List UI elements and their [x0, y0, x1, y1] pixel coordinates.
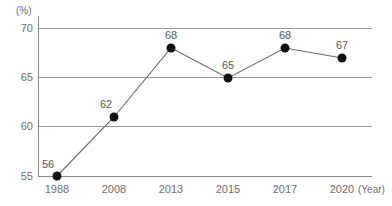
data-point-2017[interactable] [281, 44, 290, 53]
data-label-2013: 68 [165, 29, 177, 41]
data-label-1988: 56 [42, 158, 54, 170]
y-tick-label-60: 60 [21, 120, 33, 132]
data-label-2020: 67 [336, 39, 348, 51]
x-tick-label-2015: 2015 [216, 183, 240, 195]
y-tick-labels: 70 65 60 55 [21, 22, 33, 182]
chart-canvas: (%) 70 65 60 55 1988 2008 2013 2015 2017… [0, 0, 392, 206]
y-tick-label-55: 55 [21, 170, 33, 182]
data-label-2017: 68 [279, 29, 291, 41]
x-tick-label-2017: 2017 [273, 183, 297, 195]
y-axis-unit-label: (%) [16, 5, 32, 16]
y-tick-label-70: 70 [21, 22, 33, 34]
data-value-labels: 56 62 68 65 68 67 [42, 29, 348, 170]
series-markers [53, 44, 347, 181]
x-tick-label-2013: 2013 [159, 183, 183, 195]
x-tick-labels: 1988 2008 2013 2015 2017 2020 (Year) [45, 183, 385, 195]
x-axis-unit-label: (Year) [358, 184, 385, 195]
series-line [57, 48, 342, 176]
data-point-2015[interactable] [224, 74, 233, 83]
data-point-2020[interactable] [338, 54, 347, 63]
axes [39, 16, 372, 177]
x-tick-label-2020: 2020 [330, 183, 354, 195]
data-label-2008: 62 [100, 98, 112, 110]
data-label-2015: 65 [222, 59, 234, 71]
gridlines [39, 29, 372, 127]
line-chart: (%) 70 65 60 55 1988 2008 2013 2015 2017… [0, 0, 392, 206]
x-tick-label-2008: 2008 [102, 183, 126, 195]
x-tick-label-1988: 1988 [45, 183, 69, 195]
y-tick-label-65: 65 [21, 71, 33, 83]
data-point-2013[interactable] [167, 44, 176, 53]
data-point-2008[interactable] [110, 113, 119, 122]
data-point-1988[interactable] [53, 172, 62, 181]
